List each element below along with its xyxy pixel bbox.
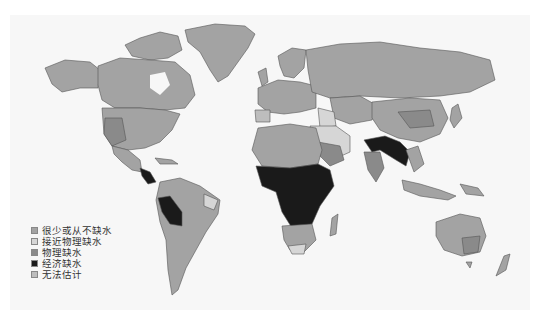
legend-label: 经济缺水: [42, 258, 82, 269]
region-japan: [450, 104, 462, 128]
region-madagascar: [330, 214, 338, 236]
legend-label: 很少或从不缺水: [42, 225, 112, 236]
legend-label: 无法估计: [42, 269, 82, 280]
region-indonesia: [402, 180, 456, 200]
legend-swatch: [31, 271, 38, 278]
region-central-america: [140, 168, 156, 184]
region-cuba: [155, 158, 178, 164]
region-mexico: [112, 146, 142, 172]
region-iberia: [255, 110, 270, 122]
region-arctic-islands: [125, 32, 182, 60]
region-greenland: [185, 24, 255, 82]
region-canada: [98, 58, 195, 110]
legend-swatch: [31, 227, 38, 234]
legend-label: 接近物理缺水: [42, 236, 102, 247]
legend-swatch: [31, 260, 38, 267]
region-south-america: [156, 178, 220, 295]
region-africa-economic: [256, 164, 334, 228]
region-europe: [258, 80, 316, 114]
region-south-africa: [288, 244, 306, 254]
region-north-africa: [252, 124, 322, 168]
legend-item: 物理缺水: [31, 247, 112, 258]
region-indochina: [406, 146, 424, 172]
legend-item: 很少或从不缺水: [31, 225, 112, 236]
region-uk: [258, 68, 268, 86]
region-scandinavia: [278, 48, 306, 78]
region-india: [364, 152, 384, 182]
region-new-zealand: [496, 254, 510, 276]
legend-item: 经济缺水: [31, 258, 112, 269]
region-alaska: [45, 60, 100, 92]
legend-item: 接近物理缺水: [31, 236, 112, 247]
region-russia: [306, 42, 495, 98]
region-tasmania: [466, 262, 472, 268]
legend-swatch: [31, 238, 38, 245]
legend-label: 物理缺水: [42, 247, 82, 258]
region-new-guinea: [460, 184, 484, 196]
region-se-australia: [462, 236, 480, 254]
region-central-asia: [330, 96, 378, 124]
legend: 很少或从不缺水 接近物理缺水 物理缺水 经济缺水 无法估计: [31, 225, 112, 280]
legend-item: 无法估计: [31, 269, 112, 280]
legend-swatch: [31, 249, 38, 256]
